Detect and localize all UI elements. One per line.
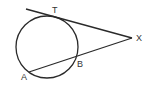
point-label-T: T — [52, 5, 58, 15]
geometry-diagram: T X A B — [0, 0, 153, 86]
point-label-A: A — [21, 72, 27, 82]
point-label-X: X — [136, 33, 142, 43]
tangent-line-XT — [26, 9, 132, 38]
circle — [16, 16, 78, 78]
point-label-B: B — [77, 59, 83, 69]
